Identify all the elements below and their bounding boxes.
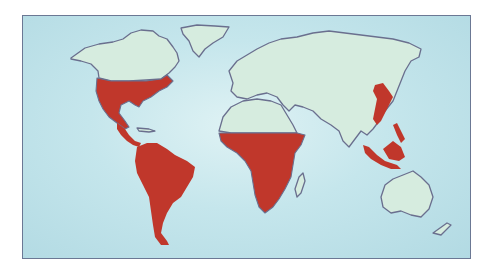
region-canada-alaska bbox=[71, 30, 179, 81]
region-indonesia-malaysia bbox=[363, 141, 405, 169]
region-philippines bbox=[393, 123, 405, 143]
world-map bbox=[23, 16, 471, 259]
region-madagascar bbox=[295, 173, 305, 197]
region-greenland bbox=[181, 25, 229, 57]
region-usa-mexico bbox=[96, 75, 173, 129]
region-new-zealand bbox=[433, 223, 451, 235]
region-sub-saharan-africa bbox=[219, 133, 305, 213]
region-australia bbox=[381, 171, 433, 217]
map-frame bbox=[22, 15, 471, 259]
region-caribbean bbox=[137, 128, 155, 132]
region-south-america bbox=[135, 143, 195, 245]
